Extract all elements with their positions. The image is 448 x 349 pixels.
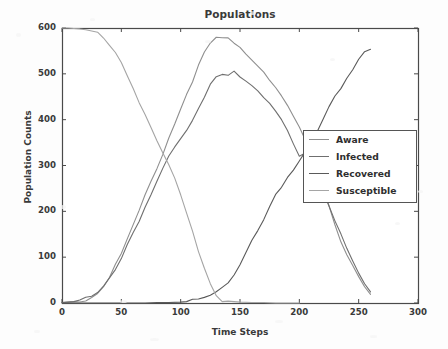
y-tick-label: 0 (26, 297, 56, 307)
legend-label: Recovered (336, 168, 391, 179)
x-tick-label: 300 (403, 307, 433, 317)
legend-item-recovered[interactable]: Recovered (304, 165, 416, 182)
x-axis-label: Time Steps (62, 327, 418, 337)
chart-legend: AwareInfectedRecoveredSusceptible (303, 130, 417, 203)
legend-label: Aware (336, 134, 369, 145)
y-tick-label: 300 (26, 160, 56, 170)
x-tick-label: 0 (47, 307, 77, 317)
x-tick-label: 150 (225, 307, 255, 317)
legend-swatch-susceptible (309, 190, 329, 191)
chart-figure: Populations Population Counts 0100200300… (0, 0, 448, 349)
legend-label: Infected (336, 151, 379, 162)
y-tick-label: 500 (26, 68, 56, 78)
y-tick-label: 100 (26, 251, 56, 261)
x-tick-label: 200 (284, 307, 314, 317)
x-tick-label: 100 (166, 307, 196, 317)
x-tick-label: 250 (344, 307, 374, 317)
y-tick-label: 200 (26, 205, 56, 215)
legend-swatch-aware (309, 139, 329, 140)
y-tick-label: 600 (26, 22, 56, 32)
legend-item-aware[interactable]: Aware (304, 131, 416, 148)
legend-swatch-infected (309, 156, 329, 157)
legend-label: Susceptible (336, 185, 396, 196)
legend-item-infected[interactable]: Infected (304, 148, 416, 165)
x-tick-label: 50 (106, 307, 136, 317)
y-tick-label: 400 (26, 114, 56, 124)
legend-item-susceptible[interactable]: Susceptible (304, 182, 416, 199)
legend-swatch-recovered (309, 173, 329, 174)
